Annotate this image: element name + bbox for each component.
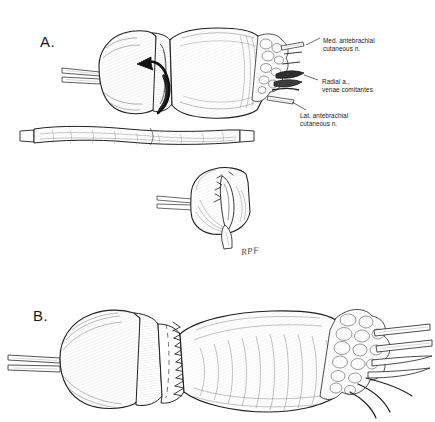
panel-a-illustration <box>62 28 320 118</box>
harvested-graft-illustration <box>20 126 254 145</box>
stump-with-tunneled-graft <box>157 168 250 249</box>
panel-a-proximal-vessels <box>62 68 100 84</box>
callout-label-radial-artery-venae-comitantes: Radial a., venae comitantes <box>322 78 373 94</box>
panel-b-proximal-vessels <box>8 355 60 372</box>
panel-a-distal-segment <box>170 28 262 118</box>
panel-b-letter: B. <box>33 307 48 324</box>
panel-a-letter: A. <box>40 33 55 50</box>
panel-b-proximal-cap <box>60 310 142 408</box>
callout-label-med-antebrachial-cutaneous-nerve: Med. antebrachial cutaneous n. <box>323 37 375 53</box>
panel-a-proximal-segment <box>99 31 158 114</box>
illustration-canvas <box>0 0 435 422</box>
medical-illustration-figure: A. B. Med. antebrachial cutaneous n. Rad… <box>0 0 435 422</box>
panel-a-cut-surface <box>252 34 304 104</box>
panel-b-suture-line <box>134 313 185 406</box>
lat-antebrachial-cutaneous-nerve <box>267 96 294 104</box>
panel-b-illustration <box>8 310 432 419</box>
callout-label-lat-antebrachial-cutaneous-nerve: Lat. antebrachial cutaneous n. <box>300 112 348 128</box>
panel-b-distal-segment <box>180 311 340 412</box>
